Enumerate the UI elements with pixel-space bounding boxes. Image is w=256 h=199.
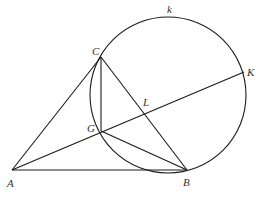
point-label-C: C [92, 45, 100, 57]
point-label-K: K [246, 66, 255, 78]
segment-CB [101, 57, 187, 170]
circle-label-k: k [167, 3, 173, 15]
point-label-A: A [6, 177, 14, 189]
geometry-diagram: A B C G L K k [0, 0, 256, 199]
segment-AC [12, 57, 101, 170]
point-label-L: L [142, 96, 149, 108]
point-label-G: G [87, 122, 95, 134]
point-label-B: B [183, 176, 190, 188]
segment-AK [12, 72, 244, 170]
circle-k [90, 17, 246, 173]
